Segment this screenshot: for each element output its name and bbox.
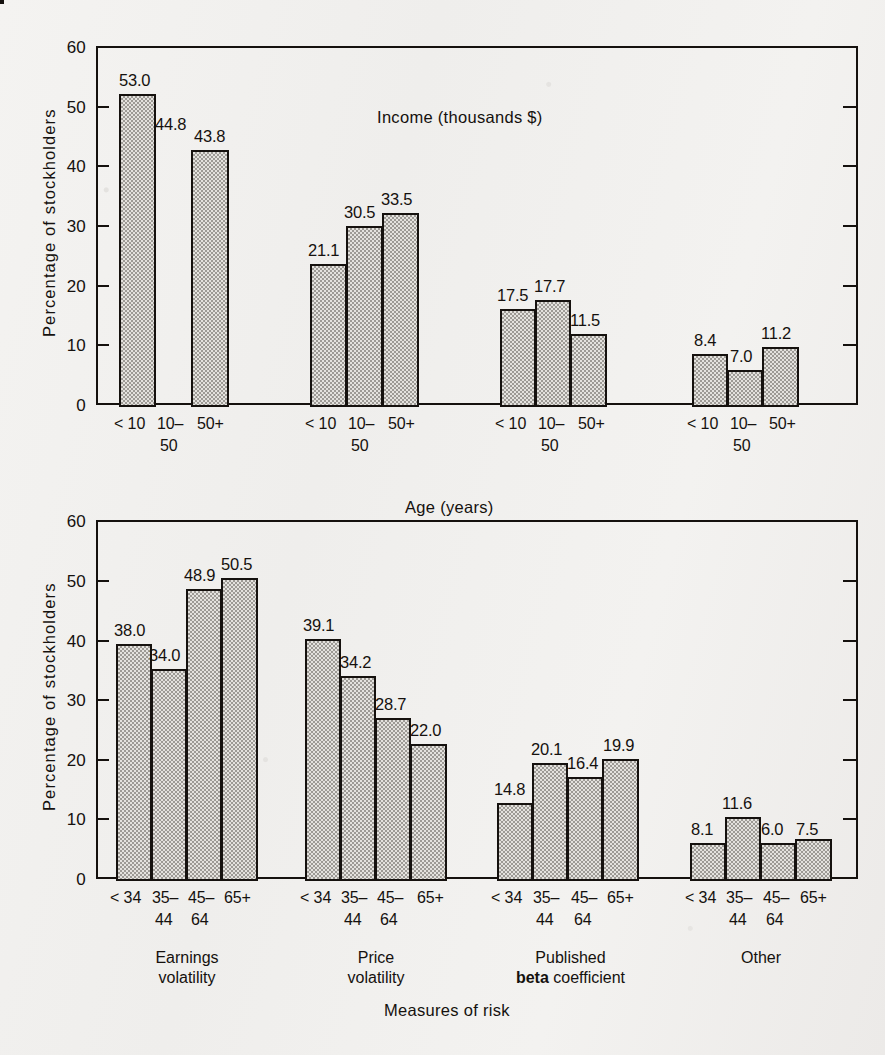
value-income-g3-c3: 11.5 [570, 312, 600, 329]
value-income-g2-c2: 30.5 [344, 204, 375, 221]
value-income-g2-c3: 33.5 [381, 191, 412, 208]
catlabel-income-g1-c3: 50+ [197, 415, 224, 433]
top-left-tick-10 [96, 344, 109, 346]
value-age-g1-c3: 48.9 [184, 567, 215, 584]
bottom-chart-title: Age (years) [405, 498, 494, 517]
grouptitle-earnings-volatility-line1: Earnings [117, 948, 257, 968]
catlabel-income-g3-c3: 50+ [578, 415, 605, 433]
bar-age-g4-c2 [725, 817, 761, 881]
catlabel-age-g4-c1: < 34 [685, 889, 716, 907]
catlabel-age-g2-c1: < 34 [300, 889, 331, 907]
catlabel-age-g1-sub2: 64 [191, 911, 209, 929]
catlabel-income-g4-c1: < 10 [687, 415, 718, 433]
bottom-x-axis-title: Measures of risk [384, 1001, 510, 1020]
bottom-ytick-60: 60 [52, 513, 86, 530]
value-age-g1-c2: 34.0 [149, 647, 180, 664]
catlabel-age-g2-c4: 65+ [417, 889, 444, 907]
bottom-right-tick-40 [843, 640, 856, 642]
top-ytick-10: 10 [52, 337, 86, 354]
bar-age-g3-c2 [532, 763, 568, 881]
bottom-left-tick-50 [96, 580, 109, 582]
bar-income-g2-c2 [346, 226, 383, 407]
catlabel-age-g1-c4: 65+ [224, 889, 251, 907]
catlabel-age-g2-c2: 35– [341, 889, 367, 907]
catlabel-age-g4-c3: 45– [763, 889, 789, 907]
top-right-tick-10 [843, 344, 856, 346]
value-income-g3-c1: 17.5 [497, 287, 528, 304]
catlabel-age-g4-sub2: 64 [766, 911, 784, 929]
grouptitle-price-volatility-line1: Price [306, 948, 446, 968]
bar-age-g1-c3 [186, 589, 222, 881]
bottom-right-tick-20 [843, 759, 856, 761]
figure-caption-stub [46, 1036, 51, 1053]
bar-age-g4-c4 [795, 839, 832, 881]
value-age-g1-c4: 50.5 [221, 556, 252, 573]
bar-income-g3-c2 [535, 300, 571, 407]
bar-age-g1-c1 [116, 644, 152, 881]
value-income-g3-c2: 17.7 [534, 278, 565, 295]
catlabel-income-g2-c2: 10– [348, 415, 374, 433]
catlabel-age-g3-c1: < 34 [491, 889, 522, 907]
bottom-left-tick-40 [96, 640, 109, 642]
bar-income-g3-c1 [500, 309, 536, 407]
top-ytick-60: 60 [52, 39, 86, 56]
bar-age-g4-c3 [760, 843, 796, 881]
top-right-tick-20 [843, 285, 856, 287]
top-right-tick-30 [843, 225, 856, 227]
top-y-axis-title: Percentage of stockholders [40, 108, 59, 337]
catlabel-age-g2-c3: 45– [377, 889, 403, 907]
catlabel-age-g2-sub2: 64 [380, 911, 398, 929]
value-income-g4-c2: 7.0 [730, 348, 752, 365]
bar-income-g2-c3 [382, 213, 419, 407]
bar-income-g2-c1 [310, 264, 347, 407]
grouptitle-price-volatility-line2: volatility [306, 968, 446, 988]
catlabel-income-g3-c1: < 10 [495, 415, 526, 433]
catlabel-age-g3-c2: 35– [533, 889, 559, 907]
bar-income-g4-c2 [727, 370, 763, 407]
bar-income-g1-c1 [119, 94, 156, 407]
bar-age-g3-c1 [497, 803, 533, 881]
bottom-y-axis-title: Percentage of stockholders [40, 582, 59, 811]
grouptitle-published-line2: beta coefficient [483, 968, 658, 988]
value-income-g1-c3: 43.8 [194, 128, 225, 145]
value-age-g2-c1: 39.1 [303, 617, 334, 634]
bar-age-g1-c2 [151, 669, 187, 881]
catlabel-income-g3-sub: 50 [541, 437, 559, 455]
grouptitle-published-line1: Published [483, 948, 658, 968]
catlabel-income-g1-sub: 50 [160, 437, 178, 455]
bar-income-g3-c3 [570, 334, 607, 407]
value-age-g3-c4: 19.9 [603, 737, 634, 754]
value-age-g3-c3: 16.4 [567, 755, 598, 772]
catlabel-age-g4-c2: 35– [726, 889, 752, 907]
catlabel-income-g2-sub: 50 [351, 437, 369, 455]
value-age-g4-c3: 6.0 [761, 821, 783, 838]
bottom-right-tick-50 [843, 580, 856, 582]
catlabel-age-g3-c3: 45– [571, 889, 597, 907]
bar-age-g3-c3 [567, 777, 603, 881]
bar-age-g2-c4 [410, 744, 447, 881]
value-age-g2-c3: 28.7 [375, 696, 406, 713]
catlabel-income-g1-c1: < 10 [114, 415, 145, 433]
value-age-g2-c2: 34.2 [340, 654, 371, 671]
catlabel-age-g1-c3: 45– [188, 889, 214, 907]
top-left-tick-50 [96, 106, 109, 108]
bar-income-g4-c1 [692, 354, 728, 407]
bar-age-g1-c4 [221, 578, 258, 881]
catlabel-income-g3-c2: 10– [538, 415, 564, 433]
beta-keyword: beta [516, 969, 549, 986]
top-left-tick-40 [96, 165, 109, 167]
catlabel-age-g1-sub1: 44 [155, 911, 173, 929]
catlabel-age-g1-c1: < 34 [110, 889, 141, 907]
grouptitle-other-line1: Other [691, 948, 831, 968]
bar-age-g2-c1 [305, 639, 341, 881]
grouptitle-earnings-volatility-line2: volatility [117, 968, 257, 988]
bottom-ytick-0: 0 [52, 871, 86, 888]
grouptitle-earnings-volatility: Earnings volatility [117, 948, 257, 988]
value-income-g4-c3: 11.2 [761, 325, 791, 342]
grouptitle-other: Other [691, 948, 831, 968]
top-right-tick-50 [843, 106, 856, 108]
bottom-right-tick-30 [843, 699, 856, 701]
catlabel-age-g3-sub2: 64 [574, 911, 592, 929]
catlabel-age-g4-c4: 65+ [800, 889, 827, 907]
bar-age-g4-c1 [690, 843, 726, 881]
